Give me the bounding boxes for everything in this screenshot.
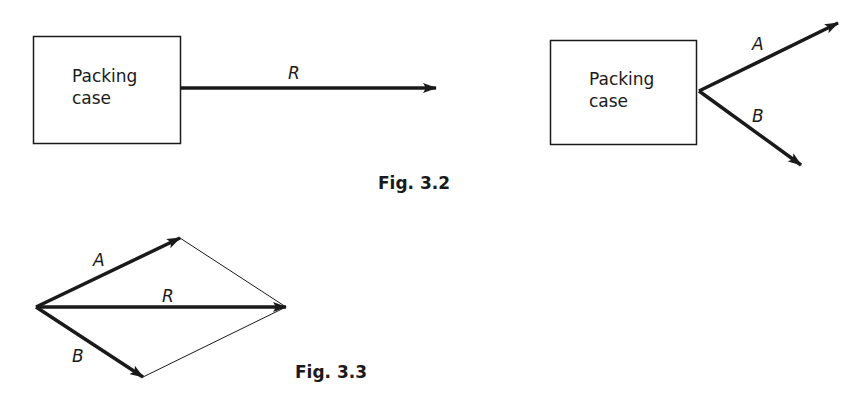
fig-3-2-caption: Fig. 3.2 (378, 173, 450, 193)
parallelogram-side-top (180, 238, 286, 307)
vector-a-label: A (751, 34, 764, 54)
packing-case-label-line2: case (589, 91, 628, 111)
vector-b-label: B (752, 106, 764, 126)
vector-b-label: B (72, 346, 84, 366)
packing-case-label-line1: Packing (589, 69, 654, 89)
vector-a-arrow (699, 23, 838, 91)
vector-r-label: R (162, 286, 174, 306)
fig-3-3-parallelogram: A R B (36, 238, 286, 377)
vector-a-arrow (36, 238, 180, 307)
packing-case-label-line2: case (72, 88, 111, 108)
diagram-canvas: Packing case R Packing case A B Fig. 3.2… (0, 0, 863, 401)
fig-3-3-caption: Fig. 3.3 (295, 362, 367, 382)
vector-b-arrow (699, 91, 801, 165)
vector-a-label: A (92, 250, 105, 270)
packing-case-label-line1: Packing (72, 66, 137, 86)
fig-3-2-right-panel: Packing case A B (551, 23, 839, 165)
parallelogram-side-bottom (143, 307, 286, 377)
vector-b-arrow (36, 307, 143, 377)
vector-r-label: R (288, 63, 300, 83)
fig-3-2-left-panel: Packing case R (34, 37, 437, 144)
